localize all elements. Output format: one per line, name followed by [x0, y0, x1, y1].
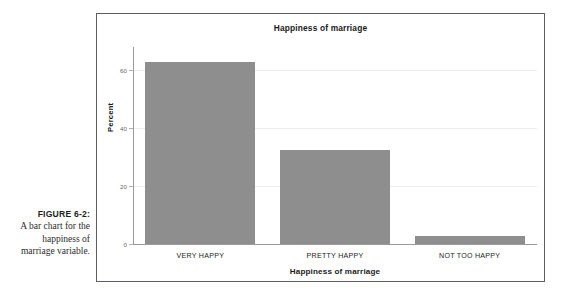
bar [145, 62, 255, 244]
chart-title: Happiness of marriage [97, 23, 544, 33]
y-tick-label: 60 [120, 67, 127, 74]
chart-frame: Happiness of marriage Percent 0204060 VE… [96, 13, 545, 282]
x-tick-label: PRETTY HAPPY [307, 252, 364, 260]
figure-caption-text: A bar chart for the happiness of marriag… [8, 220, 90, 257]
bar [415, 236, 525, 244]
y-tick-label: 40 [120, 125, 127, 132]
bar [280, 150, 390, 244]
y-axis-label: Percent [106, 103, 115, 132]
y-tick-mark [129, 244, 133, 245]
x-tick-label: VERY HAPPY [177, 252, 225, 260]
figure-caption: FIGURE 6-2: A bar chart for the happines… [8, 208, 90, 258]
x-axis-spine [133, 244, 537, 245]
x-axis-label: Happiness of marriage [133, 267, 537, 276]
x-tick-label: NOT TOO HAPPY [439, 252, 500, 260]
y-tick-mark [129, 186, 133, 187]
y-tick-label: 0 [124, 241, 127, 248]
y-tick-mark [129, 70, 133, 71]
plot-area: 0204060 VERY HAPPYPRETTY HAPPYNOT TOO HA… [133, 47, 537, 245]
y-tick-mark [129, 128, 133, 129]
y-tick-label: 20 [120, 183, 127, 190]
figure-number: FIGURE 6-2: [8, 208, 90, 220]
y-axis-spine [133, 47, 134, 245]
